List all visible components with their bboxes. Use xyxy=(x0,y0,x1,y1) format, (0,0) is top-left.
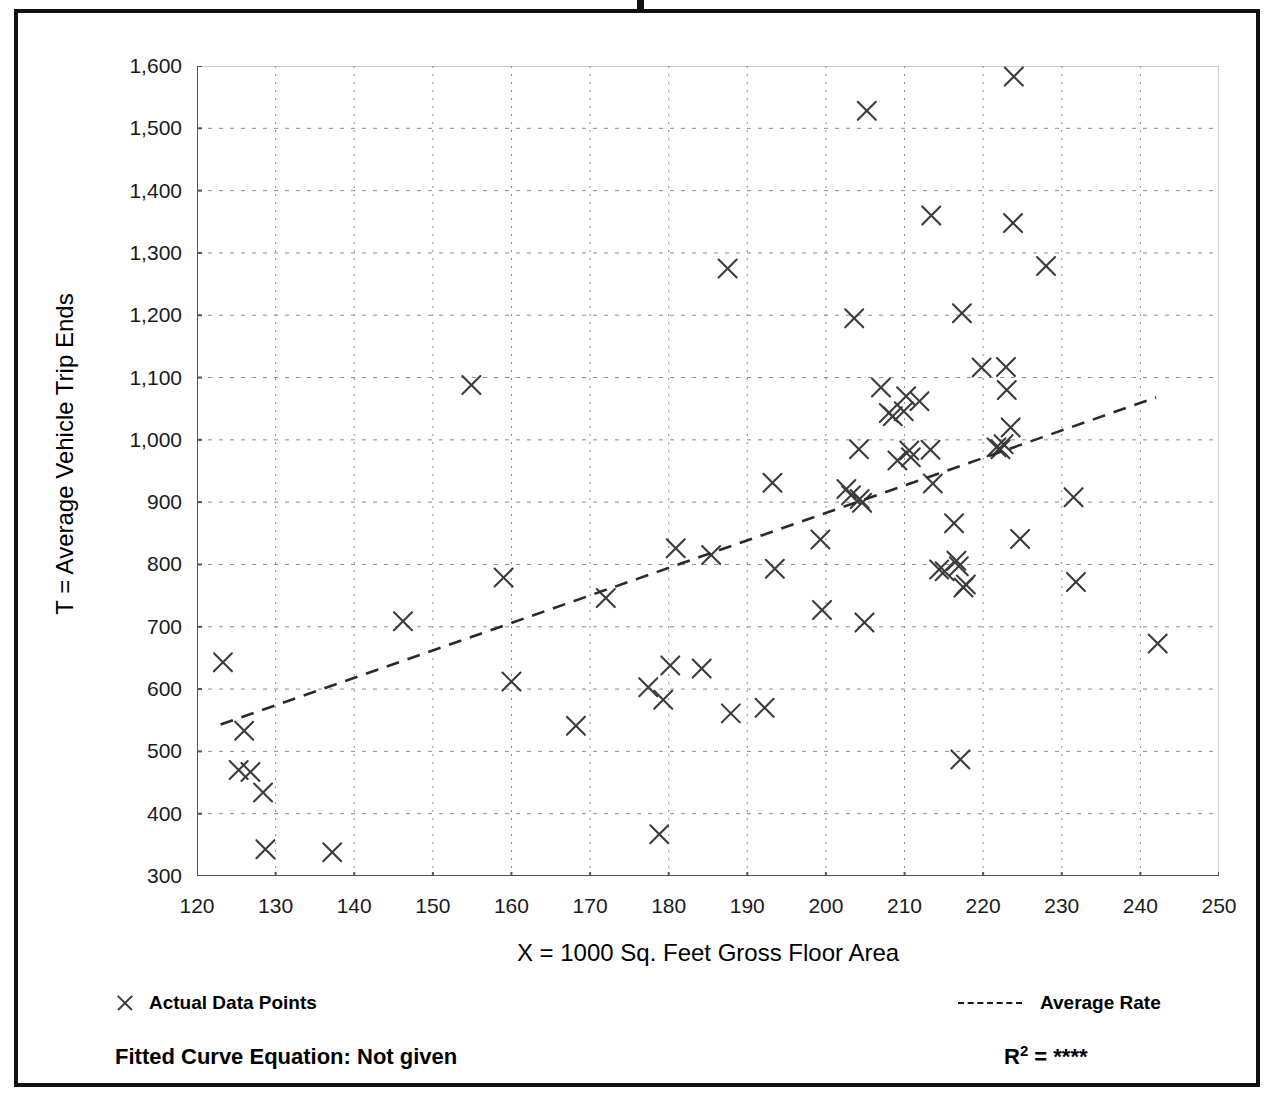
data-point-markers xyxy=(214,68,1167,862)
r-squared-value: **** xyxy=(1053,1044,1087,1069)
legend-label-actual-data-points: Actual Data Points xyxy=(149,992,317,1014)
dashed-line-icon xyxy=(958,1002,1022,1004)
x-axis-tick-label: 190 xyxy=(712,895,782,916)
grid-lines xyxy=(197,66,1219,876)
y-axis-tick-label: 500 xyxy=(147,740,182,761)
x-axis-tick-label: 140 xyxy=(319,895,389,916)
y-axis-tick-label: 1,200 xyxy=(129,304,182,325)
x-axis-tick-label: 250 xyxy=(1184,895,1254,916)
legend-item-average-rate: Average Rate xyxy=(958,992,1161,1014)
scatter-plot xyxy=(197,66,1219,876)
y-axis-tick-label: 800 xyxy=(147,553,182,574)
y-axis-tick-label: 1,000 xyxy=(129,429,182,450)
y-axis-tick-label: 900 xyxy=(147,491,182,512)
y-axis-title: T = Average Vehicle Trip Ends xyxy=(51,244,79,664)
plot-svg xyxy=(197,66,1219,876)
average-rate-trend-line xyxy=(221,397,1157,724)
x-axis-tick-label: 170 xyxy=(555,895,625,916)
x-marker-icon xyxy=(115,993,135,1013)
y-axis-tick-labels: 3004005006007008009001,0001,1001,2001,30… xyxy=(120,0,182,1097)
x-axis-tick-label: 210 xyxy=(870,895,940,916)
x-axis-tick-labels: 1201301401501601701801902002102202302402… xyxy=(0,895,1274,925)
y-axis-tick-label: 1,100 xyxy=(129,367,182,388)
x-axis-tick-label: 150 xyxy=(398,895,468,916)
legend-label-average-rate: Average Rate xyxy=(1040,992,1161,1014)
x-axis-tick-label: 240 xyxy=(1105,895,1175,916)
r-squared-equals: = xyxy=(1028,1044,1053,1069)
y-axis-tick-label: 600 xyxy=(147,678,182,699)
y-axis-tick-label: 300 xyxy=(147,865,182,886)
y-axis-tick-label: 1,400 xyxy=(129,180,182,201)
x-axis-tick-label: 160 xyxy=(476,895,546,916)
y-axis-tick-label: 1,300 xyxy=(129,242,182,263)
y-axis-tick-label: 400 xyxy=(147,803,182,824)
x-axis-title: X = 1000 Sq. Feet Gross Floor Area xyxy=(197,939,1219,967)
r-squared-annotation: R2 = **** xyxy=(1004,1042,1088,1070)
y-axis-tick-label: 1,600 xyxy=(129,55,182,76)
r-squared-exponent: 2 xyxy=(1020,1042,1028,1059)
legend-item-actual-data-points: Actual Data Points xyxy=(115,992,317,1014)
x-axis-tick-label: 180 xyxy=(634,895,704,916)
x-axis-tick-label: 130 xyxy=(241,895,311,916)
x-axis-tick-label: 120 xyxy=(162,895,232,916)
chart-page: 3004005006007008009001,0001,1001,2001,30… xyxy=(0,0,1274,1097)
plot-area-wrapper: 3004005006007008009001,0001,1001,2001,30… xyxy=(0,0,1274,1097)
x-axis-tick-label: 200 xyxy=(791,895,861,916)
fitted-curve-equation-text: Fitted Curve Equation: Not given xyxy=(115,1044,457,1070)
axis-lines xyxy=(197,66,1219,876)
r-squared-prefix: R xyxy=(1004,1044,1020,1069)
axis-tick-marks xyxy=(197,66,1219,876)
y-axis-tick-label: 1,500 xyxy=(129,117,182,138)
x-axis-tick-label: 220 xyxy=(948,895,1018,916)
x-axis-tick-label: 230 xyxy=(1027,895,1097,916)
y-axis-tick-label: 700 xyxy=(147,616,182,637)
